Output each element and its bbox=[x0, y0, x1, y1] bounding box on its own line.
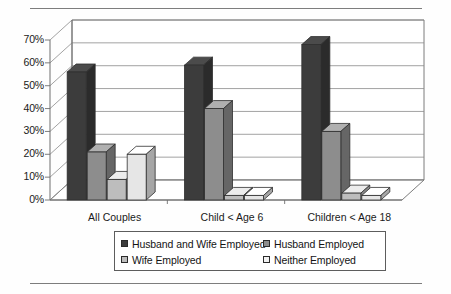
x-axis-tick-label: Children < Age 18 bbox=[289, 211, 409, 223]
legend-entry-label: Husband and Wife Employed bbox=[132, 238, 266, 250]
legend-entry: Husband and Wife Employed bbox=[121, 236, 266, 251]
legend-entry: Neither Employed bbox=[263, 252, 356, 267]
legend-entry: Wife Employed bbox=[121, 252, 201, 267]
legend-entry-label: Wife Employed bbox=[132, 254, 201, 266]
y-axis-tick-label: 60% bbox=[10, 56, 44, 68]
page-rule-top bbox=[30, 8, 422, 9]
y-axis-tick-label: 30% bbox=[10, 124, 44, 136]
legend-swatch-icon bbox=[263, 240, 270, 247]
y-axis-tick-label: 10% bbox=[10, 170, 44, 182]
bar-1-1 bbox=[205, 101, 233, 200]
bar-0-3 bbox=[127, 146, 155, 200]
bar-chart-3d bbox=[22, 16, 430, 208]
y-axis-tick-label: 70% bbox=[10, 33, 44, 45]
x-axis-tick-label: All Couples bbox=[55, 211, 175, 223]
legend-swatch-icon bbox=[263, 256, 270, 263]
legend-swatch-icon bbox=[121, 256, 128, 263]
bar-2-1 bbox=[322, 123, 350, 200]
chart-page: 70%60%50%40%30%20%10%0% All CouplesChild… bbox=[0, 0, 451, 294]
page-rule-bottom bbox=[30, 283, 422, 284]
legend-entry-label: Neither Employed bbox=[274, 254, 356, 266]
y-axis-tick-label: 40% bbox=[10, 102, 44, 114]
legend-swatch-icon bbox=[121, 240, 128, 247]
y-axis-tick-label: 50% bbox=[10, 79, 44, 91]
y-axis-tick-label: 0% bbox=[10, 193, 44, 205]
plot-area bbox=[22, 16, 430, 208]
y-axis-tick-label: 20% bbox=[10, 147, 44, 159]
chart-legend: Husband and Wife EmployedHusband Employe… bbox=[114, 231, 386, 271]
legend-entry-label: Husband Employed bbox=[274, 238, 364, 250]
legend-entry: Husband Employed bbox=[263, 236, 364, 251]
x-axis-tick-label: Child < Age 6 bbox=[172, 211, 292, 223]
